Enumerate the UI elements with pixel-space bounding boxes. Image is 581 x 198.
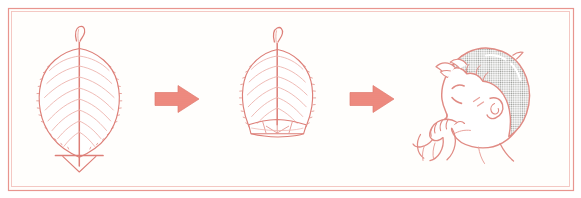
leaf-whistle-figure: Three-panel line-art sequence showing ho…	[0, 0, 581, 198]
child-ear	[487, 98, 503, 119]
leaf2-fold-flap	[249, 120, 307, 137]
figure-canvas	[0, 0, 581, 198]
